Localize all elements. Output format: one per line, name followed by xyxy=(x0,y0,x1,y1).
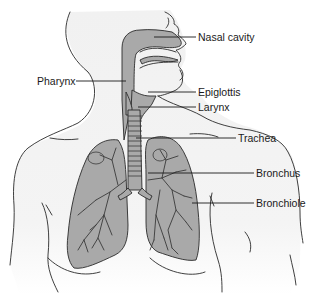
label-text-nasal-cavity: Nasal cavity xyxy=(198,31,255,43)
label-text-epiglottis: Epiglottis xyxy=(198,86,241,98)
label-text-bronchiole: Bronchiole xyxy=(256,197,306,209)
label-text-pharynx: Pharynx xyxy=(37,75,76,87)
respiratory-system-diagram: Nasal cavity Pharynx Epiglottis Larynx T… xyxy=(0,0,312,295)
trachea xyxy=(128,110,142,190)
label-text-larynx: Larynx xyxy=(198,101,230,113)
label-text-bronchus: Bronchus xyxy=(256,167,300,179)
label-text-trachea: Trachea xyxy=(238,132,276,144)
